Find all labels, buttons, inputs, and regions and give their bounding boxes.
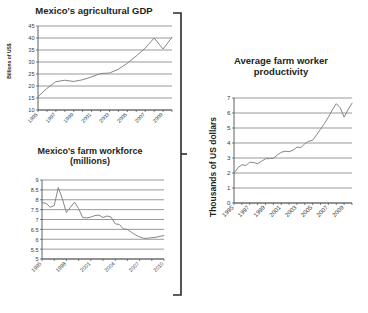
svg-text:1995: 1995 <box>30 260 43 273</box>
svg-text:2001: 2001 <box>268 204 282 218</box>
chart-title-farm-worker-productivity: Average farm worker productivity <box>202 56 360 78</box>
svg-text:7: 7 <box>227 94 231 101</box>
svg-text:40: 40 <box>28 35 34 41</box>
svg-text:6: 6 <box>35 237 38 243</box>
svg-text:5.5: 5.5 <box>31 247 39 253</box>
svg-text:2007: 2007 <box>133 111 145 123</box>
svg-text:30: 30 <box>28 59 34 65</box>
svg-text:1997: 1997 <box>44 111 56 123</box>
bracket-icon <box>172 12 188 296</box>
figure-root: Mexico's agricultural GDP Billions of US… <box>0 0 368 313</box>
chart-panel-agricultural-gdp: Mexico's agricultural GDP Billions of US… <box>0 0 178 135</box>
svg-text:8.5: 8.5 <box>31 187 39 193</box>
chart-title-productivity-line2: productivity <box>202 67 360 78</box>
svg-text:8: 8 <box>35 197 38 203</box>
svg-text:2005: 2005 <box>116 111 128 123</box>
svg-text:2003: 2003 <box>284 204 298 218</box>
svg-text:2: 2 <box>227 169 231 176</box>
svg-text:25: 25 <box>28 71 34 77</box>
svg-text:7: 7 <box>35 217 38 223</box>
svg-text:1999: 1999 <box>62 111 74 123</box>
svg-text:6.5: 6.5 <box>31 227 39 233</box>
svg-text:2009: 2009 <box>331 204 345 218</box>
plot-area-farm-worker-productivity: 0123456719951997199920012003200520072009 <box>222 94 354 229</box>
plot-area-farm-workforce: 55.566.577.588.5919951998200120042007201… <box>26 176 166 281</box>
svg-text:9: 9 <box>35 177 38 183</box>
svg-text:3: 3 <box>227 154 231 161</box>
chart-title-farm-workforce-line1: Mexico's farm workforce <box>10 146 170 156</box>
svg-text:2001: 2001 <box>79 260 92 273</box>
svg-text:6: 6 <box>227 109 231 116</box>
svg-text:4: 4 <box>227 139 231 146</box>
chart-panel-farm-workforce: Mexico's farm workforce (millions) 55.56… <box>0 143 178 313</box>
chart-panel-farm-worker-productivity: Average farm worker productivity Thousan… <box>192 52 368 262</box>
svg-text:2001: 2001 <box>80 111 92 123</box>
svg-text:2007: 2007 <box>315 204 329 218</box>
svg-text:1995: 1995 <box>222 204 235 218</box>
grouping-bracket <box>172 12 188 296</box>
svg-text:2009: 2009 <box>151 111 163 123</box>
svg-text:15: 15 <box>28 95 34 101</box>
svg-text:2003: 2003 <box>98 111 110 123</box>
svg-text:35: 35 <box>28 47 34 53</box>
svg-text:1999: 1999 <box>252 204 266 218</box>
svg-text:5: 5 <box>227 124 231 131</box>
svg-text:1: 1 <box>227 184 231 191</box>
plot-area-agricultural-gdp: 1015202530354045199519971999200120032005… <box>22 22 174 132</box>
svg-text:1998: 1998 <box>54 260 67 273</box>
svg-text:7.5: 7.5 <box>31 207 39 213</box>
y-axis-label-farm-worker-productivity: Thousands of US dollars <box>208 100 218 235</box>
y-axis-label-agricultural-gdp: Billions of US$ <box>6 30 12 92</box>
svg-text:20: 20 <box>28 83 34 89</box>
svg-text:45: 45 <box>28 23 34 29</box>
chart-title-farm-workforce: Mexico's farm workforce (millions) <box>10 146 170 167</box>
svg-text:2005: 2005 <box>300 204 314 218</box>
svg-text:2004: 2004 <box>103 260 116 273</box>
chart-title-farm-workforce-line2: (millions) <box>10 156 170 166</box>
svg-text:2010: 2010 <box>152 260 165 273</box>
chart-title-agricultural-gdp: Mexico's agricultural GDP <box>14 6 174 17</box>
svg-text:1997: 1997 <box>237 204 251 218</box>
svg-text:2007: 2007 <box>128 260 141 273</box>
